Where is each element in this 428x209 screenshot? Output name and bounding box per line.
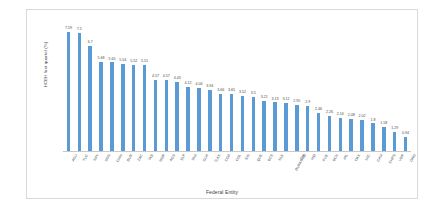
x-tick-label: TAB — [148, 154, 154, 162]
bar — [154, 80, 158, 152]
x-tick-label: YUC — [83, 154, 90, 162]
bar-value-label: 4.06 — [195, 83, 202, 87]
bar-group: 3.66COA — [215, 22, 226, 152]
bar — [317, 113, 321, 152]
bar-value-label: 2.9 — [305, 101, 310, 105]
bar-value-label: 2.08 — [348, 114, 355, 118]
y-axis-title: HCEH first quartel (%) — [43, 17, 48, 113]
bar — [252, 97, 256, 152]
x-tick-label: TLAX — [214, 154, 222, 164]
bar-group: 3.65COL — [226, 22, 237, 152]
bar-group: 3.94TLAX — [204, 22, 215, 152]
x-tick-label: AGS — [170, 154, 177, 162]
bar-value-label: 3.5 — [251, 92, 256, 96]
bar-group: 2.08OAX — [346, 22, 357, 152]
bar-value-label: 3.13 — [272, 98, 279, 102]
bar — [393, 132, 397, 152]
x-tick-label: GUA — [203, 154, 210, 163]
x-tick-label: CAM — [377, 154, 384, 163]
x-tick-label: COA — [225, 154, 232, 163]
bar-value-label: 5.51 — [141, 60, 148, 64]
bar — [295, 105, 299, 152]
x-axis-line — [63, 151, 411, 152]
bar-value-label: 3.94 — [206, 85, 213, 89]
bar — [339, 118, 343, 152]
bar-value-label: 3.52 — [239, 91, 246, 95]
bar-group: 2.9HID — [302, 22, 313, 152]
bar — [219, 94, 223, 152]
bar-value-label: 3.66 — [217, 89, 224, 93]
x-tick-label: VER — [398, 154, 405, 162]
bar-value-label: 5.68 — [98, 57, 105, 61]
x-tick-label: MOR — [160, 154, 167, 163]
bar — [262, 101, 266, 152]
bar-value-label: 4.57 — [163, 75, 170, 79]
bar-value-label: 5.65 — [108, 58, 115, 62]
bar-value-label: 1.58 — [380, 122, 387, 126]
bar — [121, 64, 125, 152]
x-tick-label: JAL — [343, 154, 349, 161]
bar-group: 5.65CHIH — [107, 22, 118, 152]
x-tick-label: CHIH — [116, 154, 124, 163]
x-tick-label: NAY — [94, 154, 101, 162]
bar — [404, 137, 408, 152]
bar-group: 2.95CHI — [291, 22, 302, 152]
bar-group: 0.94GRO — [400, 22, 411, 152]
x-tick-label: TAM — [192, 154, 199, 162]
bar-group: 1.8CAM — [368, 22, 379, 152]
bar-value-label: 2.16 — [337, 113, 344, 117]
bar-value-label: 2.26 — [326, 111, 333, 115]
bar-group: 1.29VER — [389, 22, 400, 152]
bar-chart-figure: HCEH first quartel (%) 7.59AGU7.5YUC6.7N… — [0, 0, 428, 209]
bar-value-label: 3.65 — [228, 89, 235, 93]
bar — [78, 33, 82, 152]
bar-group: 5.52ZAC — [128, 22, 139, 152]
x-tick-label: SON — [105, 154, 112, 163]
bar-group: 1.58CHPS — [378, 22, 389, 152]
x-axis-title: Federal Entity — [27, 189, 417, 195]
bar-value-label: 3.12 — [282, 98, 289, 102]
bar — [273, 102, 277, 152]
bar-value-label: 5.54 — [119, 59, 126, 63]
bar — [349, 119, 353, 152]
bar-value-label: 3.21 — [261, 96, 268, 100]
x-tick-label: BCN — [333, 154, 340, 162]
bar-group: 4.57MOR — [150, 22, 161, 152]
x-tick-label: SIN — [245, 154, 251, 161]
bar — [284, 103, 288, 152]
bar-group: 5.68SON — [96, 22, 107, 152]
bar-group: 2.46PUE — [313, 22, 324, 152]
x-tick-label: COL — [235, 154, 242, 162]
x-tick-label: SLP — [181, 154, 188, 162]
bar-group: 3.5QUE — [248, 22, 259, 152]
bar-value-label: 4.57 — [152, 75, 159, 79]
bar — [110, 62, 114, 152]
bar-value-label: 5.52 — [130, 60, 137, 64]
x-tick-label: PUE — [322, 154, 329, 162]
plot-area: 7.59AGU7.5YUC6.7NAY5.68SON5.65CHIH5.54DU… — [63, 22, 411, 152]
bar-group: 7.5YUC — [74, 22, 85, 152]
bar — [241, 96, 245, 152]
bar-group: 4.43SLP — [172, 22, 183, 152]
bar-value-label: 2.46 — [315, 108, 322, 112]
x-tick-label: GRO — [410, 154, 417, 163]
bar — [99, 62, 103, 152]
x-tick-label: ZAC — [137, 154, 144, 162]
bar-group: 4.12TAM — [183, 22, 194, 152]
bar — [67, 32, 71, 152]
bar — [186, 87, 190, 152]
bar — [165, 80, 169, 152]
bar-value-label: 2.02 — [359, 115, 366, 119]
x-tick-label: MIC — [365, 154, 371, 162]
bar-group: 7.59AGU — [63, 22, 74, 152]
bar — [382, 127, 386, 152]
bar-group: 5.54DUR — [117, 22, 128, 152]
bar-group: 4.06GUA — [194, 22, 205, 152]
bar-group: 2.02MIC — [357, 22, 368, 152]
bar-value-label: 0.94 — [402, 132, 409, 136]
bar-group: 2.26BCN — [324, 22, 335, 152]
bar-group: 3.12DURANGO — [281, 22, 292, 152]
chart-frame: HCEH first quartel (%) 7.59AGU7.5YUC6.7N… — [26, 9, 418, 199]
bar-value-label: 4.12 — [185, 82, 192, 86]
bar — [230, 94, 234, 152]
